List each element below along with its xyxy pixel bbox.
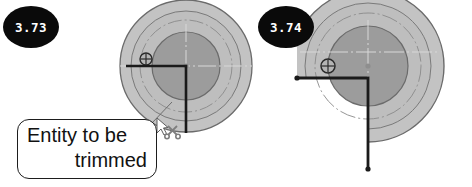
- screenshot-canvas: 3.73 3.74 Entity to be trimmed: [0, 0, 472, 187]
- step-badge-373-label: 3.73: [15, 20, 47, 35]
- step-badge-374: 3.74: [258, 6, 314, 48]
- callout-text-line-1: Entity to be: [27, 123, 147, 148]
- step-badge-373: 3.73: [3, 6, 59, 48]
- annotation-balloon: Entity to be trimmed: [17, 119, 157, 179]
- step-badge-374-label: 3.74: [270, 20, 302, 35]
- right-geometry-endpoint-start[interactable]: [294, 75, 299, 80]
- left-snap-node-marker[interactable]: [140, 53, 152, 65]
- right-hub-center: [365, 63, 370, 68]
- right-snap-node-marker[interactable]: [321, 59, 335, 73]
- right-geometry-endpoint-end[interactable]: [365, 166, 370, 171]
- callout-text-line-2: trimmed: [27, 148, 147, 173]
